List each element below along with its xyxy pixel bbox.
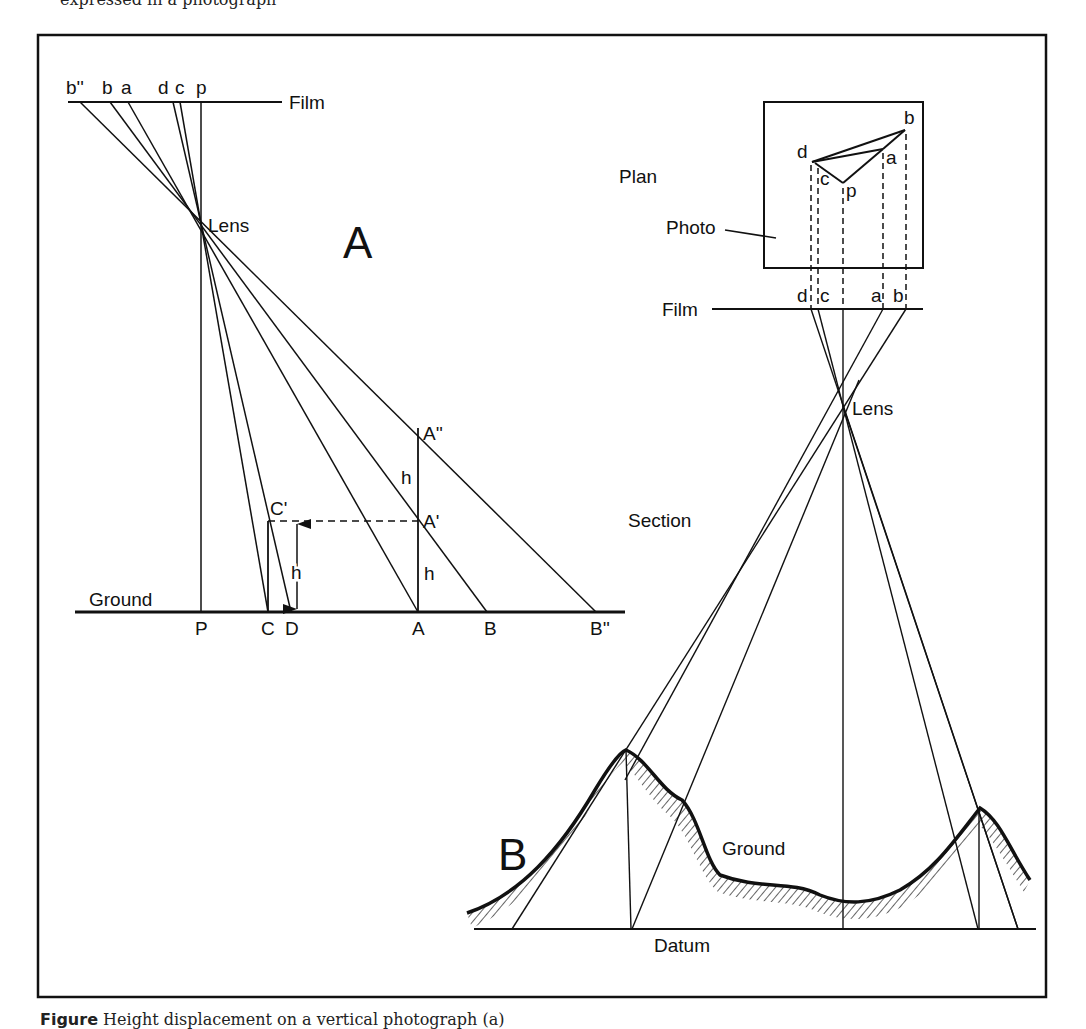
photo-leader-line [725, 230, 776, 238]
film-label-b: Film [662, 299, 698, 320]
figure-caption: Figure Height displacement on a vertical… [40, 1010, 504, 1029]
ground-point-B: B [484, 618, 497, 639]
ground-label-a: Ground [89, 589, 152, 610]
film-point-b-b: b [893, 285, 904, 306]
figure-caption-text: Height displacement on a vertical photog… [103, 1010, 504, 1029]
film-point-a: a [121, 77, 132, 98]
point-A-double-prime: A'' [423, 423, 443, 444]
plan-point-d: d [797, 141, 808, 162]
plan-point-c: c [820, 168, 830, 189]
ground-point-B-double-prime: B'' [590, 618, 610, 639]
ground-point-P: P [195, 618, 208, 639]
film-point-b-double-prime: b'' [66, 77, 84, 98]
plan-point-b: b [904, 107, 915, 128]
plan-label: Plan [619, 166, 657, 187]
figure-caption-label: Figure [40, 1010, 98, 1029]
datum-label: Datum [654, 935, 710, 956]
ground-point-C: C [261, 618, 275, 639]
photo-label: Photo [666, 217, 716, 238]
diagram-a: Film b'' b a d c p Lens A Ground P C D A… [66, 77, 625, 639]
film-point-c-b: c [820, 285, 830, 306]
film-point-d-b: d [797, 285, 808, 306]
section-label: Section [628, 510, 691, 531]
ground-point-D: D [285, 618, 299, 639]
rays-b [512, 309, 1018, 929]
film-label-a: Film [289, 92, 325, 113]
film-point-c: c [175, 77, 185, 98]
height-label-arrow: h [291, 562, 302, 583]
height-label-upper: h [401, 467, 412, 488]
vertical-peak-left [626, 750, 631, 929]
plan-point-a: a [886, 147, 897, 168]
point-C-prime: C' [270, 498, 287, 519]
film-point-a-b: a [871, 285, 882, 306]
rays-a [80, 102, 596, 612]
ray-peak-right [843, 406, 1018, 929]
panel-label-b: B [498, 830, 527, 879]
diagram-b: Plan Photo b a d c p Film d c a b [467, 102, 1036, 956]
figure-frame [38, 35, 1046, 997]
panel-label-a: A [343, 218, 373, 267]
lens-label-a: Lens [208, 215, 249, 236]
film-point-d: d [158, 77, 169, 98]
height-label-lower: h [424, 563, 435, 584]
film-point-p: p [196, 77, 207, 98]
film-point-b: b [102, 77, 113, 98]
ground-point-A: A [412, 618, 425, 639]
point-A-prime: A' [423, 511, 439, 532]
plan-point-p: p [846, 180, 857, 201]
ground-label-b: Ground [722, 838, 785, 859]
lens-label-b: Lens [852, 398, 893, 419]
